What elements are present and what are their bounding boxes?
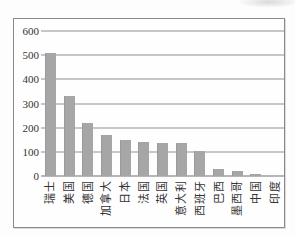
bar-slot — [209, 31, 228, 176]
x-label-slot: 中国 — [247, 177, 266, 227]
y-tick-label-200: 200 — [18, 122, 39, 134]
x-label-slot: 墨西哥 — [228, 177, 247, 227]
bar-slot — [78, 31, 97, 176]
bar-中国 — [250, 174, 261, 176]
y-axis-labels: 6005004003002001000 — [18, 31, 39, 176]
bar-德国 — [82, 123, 93, 176]
x-label-slot: 美国 — [60, 177, 79, 227]
bar-slot — [191, 31, 210, 176]
x-label-slot: 加拿大 — [97, 177, 116, 227]
x-category-label-意大利: 意大利 — [175, 180, 187, 216]
bar-西班牙 — [194, 151, 205, 176]
bar-巴西 — [213, 169, 224, 176]
x-label-slot: 巴西 — [209, 177, 228, 227]
x-category-label-中国: 中国 — [250, 180, 262, 204]
bar-意大利 — [176, 143, 187, 176]
x-label-slot: 英国 — [153, 177, 172, 227]
chart-frame: 6005004003002001000 瑞士美国德国加拿大日本法国英国意大利西班… — [13, 18, 285, 228]
x-axis-labels: 瑞士美国德国加拿大日本法国英国意大利西班牙巴西墨西哥中国印度 — [41, 177, 284, 227]
x-category-label-法国: 法国 — [138, 180, 150, 204]
x-category-label-瑞士: 瑞士 — [44, 180, 56, 204]
bar-英国 — [157, 143, 168, 176]
chart-canvas: 6005004003002001000 瑞士美国德国加拿大日本法国英国意大利西班… — [0, 0, 295, 236]
bar-slot — [60, 31, 79, 176]
bar-墨西哥 — [232, 171, 243, 176]
plot-area — [41, 31, 284, 176]
x-label-slot: 西班牙 — [191, 177, 210, 227]
bar-slot — [172, 31, 191, 176]
y-tick-label-400: 400 — [18, 73, 39, 85]
x-category-label-美国: 美国 — [63, 180, 75, 204]
x-category-label-英国: 英国 — [156, 180, 168, 204]
bar-slot — [41, 31, 60, 176]
bar-slot — [153, 31, 172, 176]
x-label-slot: 瑞士 — [41, 177, 60, 227]
scan-smudge-artifact — [237, 0, 295, 8]
x-category-label-巴西: 巴西 — [213, 180, 225, 204]
x-label-slot: 日本 — [116, 177, 135, 227]
y-tick-label-600: 600 — [18, 25, 39, 37]
x-category-label-西班牙: 西班牙 — [194, 180, 206, 216]
bar-slot — [134, 31, 153, 176]
x-label-slot: 意大利 — [172, 177, 191, 227]
x-label-slot: 印度 — [265, 177, 284, 227]
bar-slot — [228, 31, 247, 176]
y-tick-label-0: 0 — [18, 170, 39, 182]
bar-slot — [116, 31, 135, 176]
bar-法国 — [138, 142, 149, 176]
bar-slot — [247, 31, 266, 176]
x-category-label-加拿大: 加拿大 — [100, 180, 112, 216]
bar-日本 — [120, 140, 131, 176]
bars-layer — [41, 31, 284, 176]
x-category-label-德国: 德国 — [82, 180, 94, 204]
x-label-slot: 德国 — [78, 177, 97, 227]
x-label-slot: 法国 — [134, 177, 153, 227]
bar-瑞士 — [45, 53, 56, 176]
y-tick-label-100: 100 — [18, 146, 39, 158]
y-tick-label-300: 300 — [18, 98, 39, 110]
bar-美国 — [64, 96, 75, 176]
bar-加拿大 — [101, 135, 112, 176]
x-category-label-墨西哥: 墨西哥 — [231, 180, 243, 216]
x-category-label-日本: 日本 — [119, 180, 131, 204]
bar-slot — [97, 31, 116, 176]
y-tick-label-500: 500 — [18, 49, 39, 61]
bar-slot — [265, 31, 284, 176]
x-category-label-印度: 印度 — [269, 180, 281, 204]
